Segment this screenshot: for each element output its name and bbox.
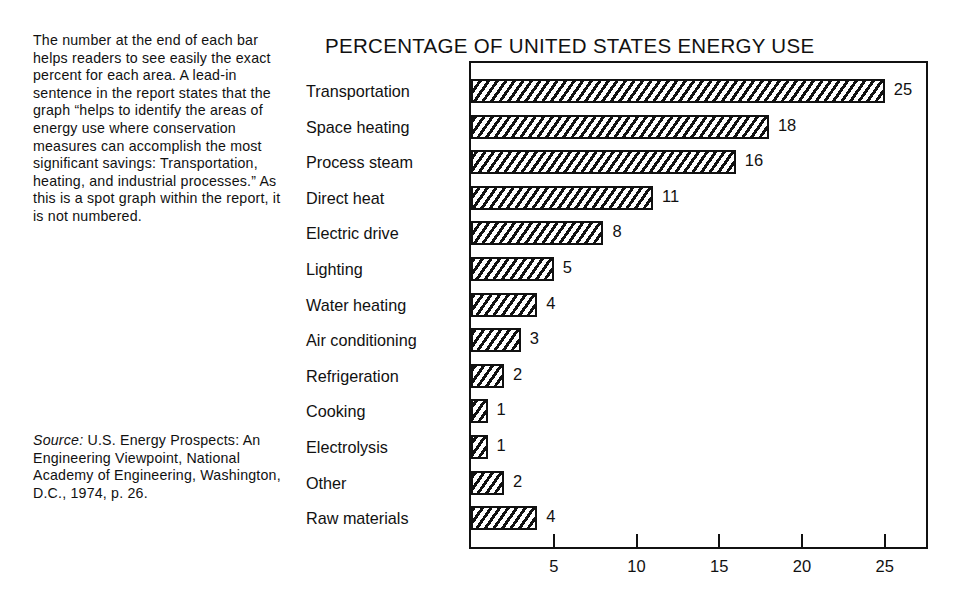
bar-value-label: 4 (546, 507, 555, 526)
bar-value-label: 8 (612, 222, 621, 241)
bar-value-label: 25 (894, 80, 912, 99)
category-label: Process steam (306, 153, 413, 172)
x-axis-tick (884, 534, 886, 549)
bar (471, 257, 554, 281)
bar (471, 221, 603, 245)
x-axis-tick-label: 20 (793, 557, 811, 576)
bar (471, 399, 488, 423)
bar (471, 364, 504, 388)
category-label: Electric drive (306, 224, 399, 243)
bar (471, 328, 521, 352)
bar-value-label: 2 (513, 365, 522, 384)
x-axis-tick-label: 5 (549, 557, 558, 576)
bar-value-label: 5 (563, 258, 572, 277)
category-label: Space heating (306, 118, 410, 137)
bar (471, 79, 885, 103)
bar (471, 471, 504, 495)
bar (471, 115, 769, 139)
category-label: Lighting (306, 260, 363, 279)
category-label: Water heating (306, 296, 406, 315)
source-label: Source: (33, 432, 83, 448)
bar (471, 435, 488, 459)
bar-value-label: 1 (497, 436, 506, 455)
bar-value-label: 11 (662, 187, 679, 206)
bar-value-label: 16 (745, 151, 763, 170)
bar-value-label: 2 (513, 472, 522, 491)
bar (471, 293, 537, 317)
category-label: Transportation (306, 82, 410, 101)
source-citation: Source: U.S. Energy Prospects: An Engine… (33, 432, 283, 502)
bar-value-label: 3 (530, 329, 539, 348)
category-label: Air conditioning (306, 331, 417, 350)
x-axis-tick (636, 534, 638, 549)
bar-value-label: 1 (497, 400, 506, 419)
x-axis-tick-label: 25 (876, 557, 894, 576)
category-label: Refrigeration (306, 367, 399, 386)
x-axis-tick-label: 15 (710, 557, 728, 576)
x-axis-tick (718, 534, 720, 549)
bar-value-label: 18 (778, 116, 796, 135)
category-label: Other (306, 474, 347, 493)
bar-value-label: 4 (546, 294, 555, 313)
bar (471, 186, 653, 210)
chart-title: PERCENTAGE OF UNITED STATES ENERGY USE (325, 34, 814, 58)
bar (471, 506, 537, 530)
category-label: Raw materials (306, 509, 409, 528)
category-label: Cooking (306, 402, 365, 421)
x-axis-tick (801, 534, 803, 549)
bar (471, 150, 736, 174)
x-axis-tick (553, 534, 555, 549)
x-axis-tick-label: 10 (627, 557, 645, 576)
sidenote-text: The number at the end of each bar helps … (33, 32, 283, 226)
category-label: Direct heat (306, 189, 384, 208)
category-label: Electrolysis (306, 438, 388, 457)
explanatory-sidenote: The number at the end of each bar helps … (33, 32, 283, 226)
